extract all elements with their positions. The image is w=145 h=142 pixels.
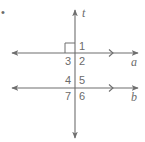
line-label-b: b	[131, 90, 137, 104]
angle-label-2: 2	[79, 55, 85, 67]
list-bullet: •	[1, 6, 5, 18]
angle-label-1: 1	[79, 40, 85, 52]
angle-label-7: 7	[65, 90, 71, 102]
transversal-label-t: t	[82, 6, 86, 20]
angle-label-4: 4	[65, 74, 71, 86]
line-label-a: a	[131, 55, 137, 69]
geometry-diagram: • t a b 1 2 3 4 5 6 7	[0, 0, 145, 142]
angle-label-6: 6	[79, 90, 85, 102]
angle-label-3: 3	[65, 55, 71, 67]
right-angle-marker-icon	[65, 43, 75, 53]
angle-label-5: 5	[79, 74, 85, 86]
